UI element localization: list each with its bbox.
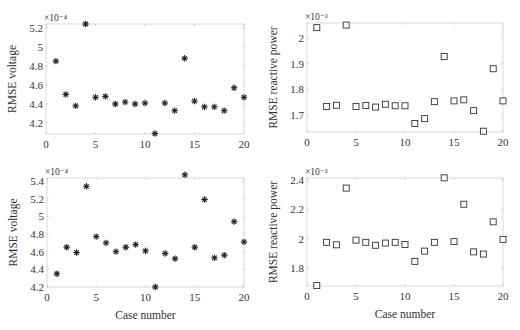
x-tick-label: 20 xyxy=(239,138,251,150)
subplot-top-left: 051015204.24.44.64.855.2×10⁻⁴RMSE voltag… xyxy=(6,13,250,150)
data-point xyxy=(451,98,457,104)
axes-box xyxy=(307,23,503,132)
data-point xyxy=(402,103,408,109)
x-tick-label: 5 xyxy=(353,136,359,148)
data-point xyxy=(402,242,408,248)
subplot-top-right: 051015201.71.81.92×10⁻³RMSE reactive pow… xyxy=(267,12,509,148)
x-tick-label: 15 xyxy=(449,136,461,148)
data-point xyxy=(314,25,320,31)
axes-box xyxy=(307,178,503,286)
data-point xyxy=(64,244,70,250)
y-axis-label: RMSE voltage xyxy=(6,45,19,113)
data-point xyxy=(441,175,447,181)
data-point xyxy=(471,249,477,255)
y-tick-label: 2 xyxy=(299,233,305,245)
data-point xyxy=(343,22,349,28)
x-tick-label: 0 xyxy=(304,290,310,302)
data-point xyxy=(102,93,108,99)
y-tick-label: 2.2 xyxy=(290,203,304,215)
data-point xyxy=(152,284,158,290)
y-tick-label: 1.8 xyxy=(290,83,304,95)
data-point xyxy=(480,251,486,257)
x-tick-label: 15 xyxy=(449,290,461,302)
data-point xyxy=(392,239,398,245)
data-point xyxy=(201,196,207,202)
y-tick-label: 5.2 xyxy=(29,22,43,34)
x-tick-label: 10 xyxy=(400,290,412,302)
x-tick-label: 20 xyxy=(498,136,510,148)
data-point xyxy=(382,240,388,246)
data-point xyxy=(182,172,188,178)
data-point xyxy=(162,100,168,106)
data-point xyxy=(353,104,359,110)
y-tick-label: 4.6 xyxy=(29,79,43,91)
data-point xyxy=(431,99,437,105)
data-point xyxy=(241,239,247,245)
x-tick-label: 5 xyxy=(353,290,359,302)
data-point xyxy=(412,258,418,264)
data-point xyxy=(441,53,447,59)
axes-box xyxy=(47,178,244,287)
data-point xyxy=(211,255,217,261)
x-axis-label: Case number xyxy=(115,309,176,321)
y-exponent-label: ×10⁻⁴ xyxy=(45,167,69,177)
y-exponent-label: ×10⁻³ xyxy=(305,167,328,177)
data-point xyxy=(113,248,119,254)
y-tick-label: 5.4 xyxy=(30,175,44,187)
data-point xyxy=(73,103,79,109)
data-point xyxy=(162,250,168,256)
data-point xyxy=(192,244,198,250)
x-tick-label: 5 xyxy=(93,138,99,150)
data-point xyxy=(373,242,379,248)
data-point xyxy=(324,239,330,245)
y-tick-label: 5 xyxy=(39,210,45,222)
y-tick-label: 4.6 xyxy=(30,246,44,258)
y-tick-label: 5 xyxy=(38,41,44,53)
data-point xyxy=(471,108,477,114)
y-tick-label: 4.4 xyxy=(29,98,43,110)
data-point xyxy=(382,101,388,107)
data-point xyxy=(500,236,506,242)
data-point xyxy=(123,244,129,250)
data-point xyxy=(431,239,437,245)
data-point xyxy=(172,256,178,262)
data-point xyxy=(333,242,339,248)
data-point xyxy=(172,107,178,113)
data-point xyxy=(324,104,330,110)
data-point xyxy=(83,183,89,189)
data-point xyxy=(201,104,207,110)
data-point xyxy=(480,128,486,134)
y-tick-label: 4.8 xyxy=(30,228,44,240)
data-point xyxy=(392,103,398,109)
data-point xyxy=(373,104,379,110)
data-point xyxy=(451,239,457,245)
y-tick-label: 4.8 xyxy=(29,60,43,72)
data-point xyxy=(500,98,506,104)
y-tick-label: 4.2 xyxy=(30,281,44,293)
x-tick-label: 10 xyxy=(400,136,412,148)
data-point xyxy=(152,130,158,136)
figure: 051015204.24.44.64.855.2×10⁻⁴RMSE voltag… xyxy=(0,0,520,330)
x-tick-label: 10 xyxy=(140,138,152,150)
x-tick-label: 0 xyxy=(43,138,49,150)
data-point xyxy=(53,58,59,64)
data-point xyxy=(412,121,418,127)
data-point xyxy=(132,241,138,247)
y-tick-label: 1.7 xyxy=(290,109,304,121)
data-point xyxy=(93,233,99,239)
data-point xyxy=(490,66,496,72)
y-tick-label: 1.9 xyxy=(290,58,304,70)
y-tick-label: 4.4 xyxy=(30,263,44,275)
y-tick-label: 4.2 xyxy=(29,117,43,129)
data-point xyxy=(132,101,138,107)
data-point xyxy=(461,201,467,207)
data-point xyxy=(142,248,148,254)
data-point xyxy=(211,104,217,110)
subplot-bottom-left: 051015204.24.44.64.855.25.4×10⁻⁴RMSE vol… xyxy=(7,167,250,321)
y-exponent-label: ×10⁻⁴ xyxy=(44,13,68,23)
x-tick-label: 15 xyxy=(189,291,201,303)
x-tick-label: 0 xyxy=(304,136,310,148)
data-point xyxy=(333,102,339,108)
data-point xyxy=(103,240,109,246)
data-point xyxy=(314,283,320,289)
